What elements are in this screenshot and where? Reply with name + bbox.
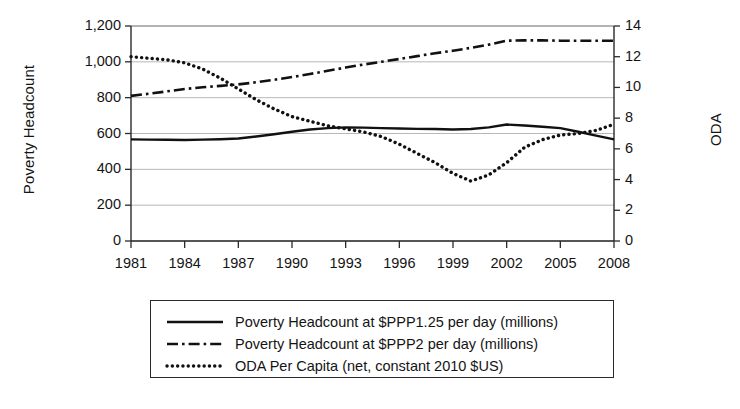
legend-item-3: ODA Per Capita (net, constant 2010 $US) — [165, 354, 503, 378]
y-axis-left-tick-label: 0 — [55, 232, 121, 248]
legend-item-1: Poverty Headcount at $PPP1.25 per day (m… — [165, 310, 558, 334]
y-axis-right-title: ODA — [707, 30, 724, 230]
y-axis-right-tick-label: 12 — [625, 48, 685, 64]
series-line-1 — [131, 125, 614, 140]
series-line-3 — [131, 57, 614, 181]
legend-swatch-dash-dot — [165, 336, 225, 352]
y-axis-right-tick-label: 10 — [625, 78, 685, 94]
x-axis-tick-label: 1987 — [212, 255, 264, 271]
chart-container: Poverty Headcount ODA 02004006008001,000… — [0, 0, 740, 409]
y-axis-right-tick-label: 2 — [625, 201, 685, 217]
x-axis-tick-label: 1993 — [320, 255, 372, 271]
chart-legend: Poverty Headcount at $PPP1.25 per day (m… — [150, 300, 614, 378]
y-axis-left-tick-label: 400 — [55, 160, 121, 176]
y-axis-right-tick-label: 14 — [625, 17, 685, 33]
gridlines — [131, 26, 614, 241]
y-axis-left-tick-label: 1,000 — [55, 53, 121, 69]
x-axis-tick-label: 2002 — [481, 255, 533, 271]
y-axis-left-tick-label: 200 — [55, 196, 121, 212]
x-axis-tick-label: 1996 — [373, 255, 425, 271]
x-axis-tick-label: 2005 — [534, 255, 586, 271]
y-axis-right-tick-label: 0 — [625, 232, 685, 248]
y-axis-right-tick-label: 4 — [625, 171, 685, 187]
x-axis-tick-label: 1999 — [427, 255, 479, 271]
legend-item-2: Poverty Headcount at $PPP2 per day (mill… — [165, 332, 538, 356]
axis-lines — [125, 26, 620, 248]
x-axis-tick-label: 1990 — [266, 255, 318, 271]
legend-label: Poverty Headcount at $PPP2 per day (mill… — [235, 337, 538, 352]
legend-swatch-dotted — [165, 358, 225, 374]
legend-label: Poverty Headcount at $PPP1.25 per day (m… — [235, 315, 558, 330]
data-series — [131, 40, 614, 181]
x-axis-tick-label: 1984 — [159, 255, 211, 271]
y-axis-left-tick-label: 800 — [55, 89, 121, 105]
x-axis-tick-label: 1981 — [105, 255, 157, 271]
y-axis-left-tick-label: 600 — [55, 125, 121, 141]
legend-label: ODA Per Capita (net, constant 2010 $US) — [235, 359, 503, 374]
y-axis-left-tick-label: 1,200 — [55, 17, 121, 33]
x-axis-tick-label: 2008 — [588, 255, 640, 271]
y-axis-right-tick-label: 6 — [625, 140, 685, 156]
y-axis-left-title: Poverty Headcount — [20, 30, 37, 230]
y-axis-right-tick-label: 8 — [625, 109, 685, 125]
legend-swatch-solid — [165, 314, 225, 330]
